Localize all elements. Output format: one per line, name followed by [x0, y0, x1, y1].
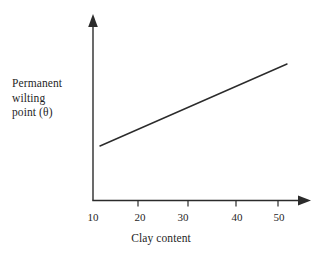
y-axis-title-line-1: Permanent — [12, 76, 92, 91]
y-axis-title-line-3: point (θ) — [12, 105, 92, 120]
data-series-line — [100, 64, 287, 146]
x-axis-tick-label: 50 — [274, 211, 286, 223]
plot-area: 10 20 30 40 50 — [0, 0, 322, 262]
x-axis-arrow-icon — [298, 196, 311, 206]
x-axis-tick-label: 10 — [88, 211, 100, 223]
x-axis-tick-label: 20 — [135, 211, 147, 223]
y-axis-arrow-icon — [88, 14, 98, 27]
chart-screenshot: 10 20 30 40 50 Permanent wilting point (… — [0, 0, 322, 262]
y-axis-title: Permanent wilting point (θ) — [12, 76, 92, 120]
x-axis-tick-label: 40 — [232, 211, 244, 223]
x-axis-tick-label: 30 — [178, 211, 190, 223]
x-axis-title: Clay content — [0, 232, 322, 245]
y-axis-title-line-2: wilting — [12, 91, 92, 106]
